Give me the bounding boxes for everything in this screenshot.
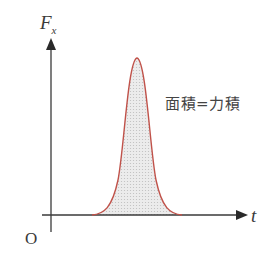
impulse-diagram — [0, 0, 277, 271]
impulse-area-fill — [92, 58, 182, 215]
area-annotation: 面積=力積 — [165, 92, 240, 113]
x-axis-arrow-icon — [236, 210, 248, 220]
x-axis-label: t — [251, 205, 256, 227]
y-axis-label-subscript: x — [52, 24, 57, 36]
origin-label: O — [25, 229, 37, 249]
y-axis-label: Fx — [40, 12, 57, 36]
y-axis-arrow-icon — [46, 38, 56, 50]
